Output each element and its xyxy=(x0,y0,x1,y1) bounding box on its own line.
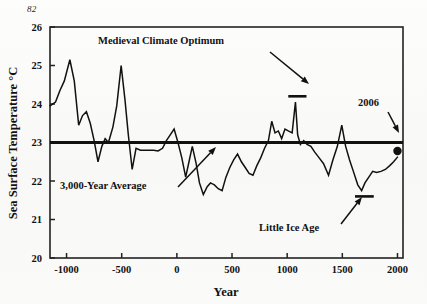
annotation-arrow-head xyxy=(393,124,399,133)
y-tick-label: 20 xyxy=(32,253,43,264)
x-tick-label: 500 xyxy=(224,264,240,275)
y-tick-label: 24 xyxy=(32,99,43,110)
y-tick-label: 21 xyxy=(32,214,43,225)
x-tick-label: -500 xyxy=(112,264,131,275)
x-axis-title: Year xyxy=(214,285,239,299)
annotation-arrows xyxy=(178,52,399,224)
x-tick-label: 2000 xyxy=(387,264,408,275)
figure-page: 82 20212223242526 -1000-5000500100015002… xyxy=(0,0,427,304)
annotation-arrow-shaft xyxy=(341,203,357,224)
y-tick-label: 23 xyxy=(32,137,43,148)
x-tick-label: 1000 xyxy=(277,264,298,275)
period-marker-bars xyxy=(288,96,373,196)
y-tick-label: 22 xyxy=(32,176,43,187)
y-tick-label: 26 xyxy=(32,22,43,33)
annotation-arrow-shaft xyxy=(270,52,303,79)
annotation-little-ice-age: Little Ice Age xyxy=(259,222,319,233)
annotation-2006: 2006 xyxy=(358,97,379,108)
annotation-three-thousand-year-average: 3,000-Year Average xyxy=(60,180,147,191)
y-tick-label: 25 xyxy=(32,60,43,71)
sea-surface-temperature-line-chart: 20212223242526 -1000-5000500100015002000… xyxy=(0,0,427,304)
annotation-medieval-climate-optimum: Medieval Climate Optimum xyxy=(98,35,224,46)
y-axis-tick-labels: 20212223242526 xyxy=(32,22,43,264)
x-tick-label: -1000 xyxy=(54,264,79,275)
y-axis-title: Sea Surface Temperature °C xyxy=(6,67,20,219)
x-axis-tick-labels: -1000-5000500100015002000 xyxy=(54,264,408,275)
x-tick-label: 1500 xyxy=(332,264,353,275)
chart-figure: 20212223242526 -1000-5000500100015002000… xyxy=(0,0,427,304)
x-tick-label: 0 xyxy=(174,264,179,275)
endpoint-marker-group xyxy=(393,147,401,155)
temperature-series-line xyxy=(50,60,397,195)
annotation-arrow-shaft xyxy=(388,112,395,126)
endpoint-marker xyxy=(393,147,401,155)
